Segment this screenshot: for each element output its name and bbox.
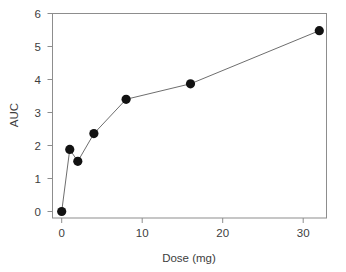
- y-axis-title: AUC: [8, 103, 20, 127]
- auc-dose-scatter-plot: 0 1 2 3 4 5 6 0 10 20 30 Dose (mg) AUC: [0, 0, 346, 272]
- x-tick-label-30: 30: [297, 227, 310, 239]
- data-point: [315, 26, 324, 35]
- x-axis-title: Dose (mg): [162, 252, 216, 264]
- y-tick-label-5: 5: [35, 41, 41, 53]
- y-tick-label-6: 6: [35, 8, 41, 20]
- chart-figure: 0 1 2 3 4 5 6 0 10 20 30 Dose (mg) AUC: [0, 0, 346, 272]
- y-tick-label-0: 0: [35, 206, 41, 218]
- data-point: [89, 129, 98, 138]
- data-point: [186, 79, 195, 88]
- y-tick-label-2: 2: [35, 140, 41, 152]
- y-tick-label-1: 1: [35, 173, 41, 185]
- x-tick-label-0: 0: [58, 227, 64, 239]
- y-tick-label-3: 3: [35, 107, 41, 119]
- data-point: [65, 145, 74, 154]
- data-point: [122, 95, 131, 104]
- data-point: [57, 207, 66, 216]
- y-tick-label-4: 4: [35, 74, 42, 86]
- x-tick-label-10: 10: [136, 227, 149, 239]
- data-point: [73, 157, 82, 166]
- x-tick-label-20: 20: [216, 227, 229, 239]
